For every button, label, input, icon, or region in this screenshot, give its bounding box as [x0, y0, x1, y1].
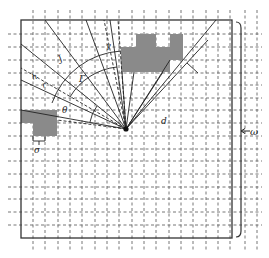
sigma-bracket: [33, 136, 45, 145]
label-theta: θ: [62, 105, 68, 115]
arc-Gamma: [70, 67, 117, 97]
label-Gamma: Γ: [78, 74, 86, 84]
obstacle-top: [136, 34, 156, 48]
label-gamma: γ: [106, 41, 111, 50]
obstacle-bottom: [121, 60, 170, 72]
label-d: d: [161, 116, 167, 126]
label-omega: ω: [250, 126, 258, 137]
origin-point: [123, 126, 128, 131]
bracket: [236, 22, 241, 237]
ray-casting-diagram: J γ h r Γ θ d σ ω: [0, 0, 269, 258]
obstacle-middle: [121, 47, 183, 60]
omega-arrow-icon: [241, 129, 250, 134]
label-J: J: [54, 53, 65, 65]
label-sigma: σ: [34, 145, 41, 155]
